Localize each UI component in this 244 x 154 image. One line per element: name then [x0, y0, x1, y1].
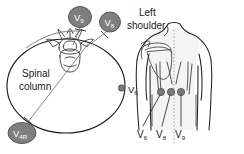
label-v6-bottom: V6	[137, 129, 148, 141]
electrode-dot-v9	[177, 88, 184, 95]
label-v6-bottom-sub: 6	[144, 134, 148, 141]
badge-v8: V8	[100, 12, 121, 32]
electrode-dot-v8	[167, 88, 174, 95]
label-left-shoulder-line2: shoulder	[127, 20, 166, 31]
badge-v4r: V4R	[8, 123, 36, 144]
badge-v9: V9	[69, 7, 92, 28]
torso-shade	[147, 28, 199, 130]
left-shoulder-text-1: Left	[139, 7, 156, 18]
label-spinal-column-line2: column	[19, 81, 51, 92]
electrode-dot-v6	[157, 88, 164, 95]
spinal-column-text-2: column	[19, 81, 51, 92]
label-v8-bottom-sub: 8	[163, 134, 167, 141]
posterior-torso-view: Left shoulder V6 V8 V9	[127, 7, 212, 145]
neck-base-arc	[168, 23, 180, 25]
badge-v4r-sub: 4R	[19, 133, 27, 140]
label-v9-bottom: V9	[175, 129, 186, 141]
badge-v9-sub: 9	[80, 17, 84, 24]
transverse-cross-section: V6 Spinal column V9 V8 V4R	[7, 7, 138, 144]
left-shoulder-text-2: shoulder	[127, 20, 166, 31]
electrode-dot-v6-crosssection	[118, 85, 124, 91]
label-spinal-column-line1: Spinal	[22, 68, 50, 79]
label-v8-bottom: V8	[156, 129, 167, 141]
badge-v8-sub: 8	[111, 22, 115, 29]
posterior-lead-placement-figure: V6 Spinal column V9 V8 V4R	[0, 0, 244, 154]
label-left-shoulder-line1: Left	[139, 7, 156, 18]
label-v9-bottom-sub: 9	[182, 134, 186, 141]
spinal-column-text-1: Spinal	[22, 68, 50, 79]
